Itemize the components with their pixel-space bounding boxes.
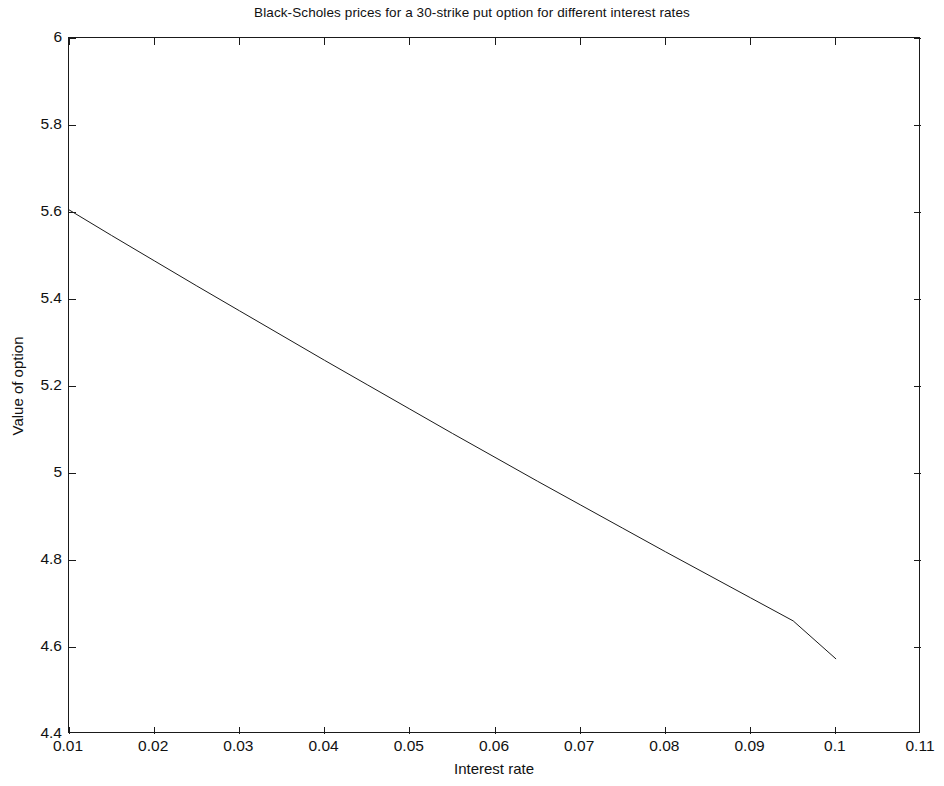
x-tick-label: 0.1 <box>800 738 870 754</box>
plot-area <box>68 37 920 733</box>
y-tick-label: 5.4 <box>6 290 62 306</box>
y-tick-label: 4.6 <box>6 638 62 654</box>
x-axis-ticks <box>69 38 921 734</box>
x-tick-label: 0.01 <box>33 738 103 754</box>
y-axis-title: Value of option <box>9 306 27 466</box>
data-series-layer <box>69 210 836 659</box>
x-tick-label: 0.09 <box>715 738 785 754</box>
x-tick-label: 0.04 <box>289 738 359 754</box>
y-tick-label: 5.8 <box>6 116 62 132</box>
x-tick-label: 0.08 <box>629 738 699 754</box>
y-tick-label: 5 <box>6 464 62 480</box>
plot-svg <box>69 38 921 734</box>
y-tick-label: 5.6 <box>6 203 62 219</box>
x-tick-label: 0.07 <box>544 738 614 754</box>
x-tick-label: 0.05 <box>374 738 444 754</box>
x-tick-label: 0.02 <box>118 738 188 754</box>
figure-canvas: Black-Scholes prices for a 30-strike put… <box>0 0 944 786</box>
y-tick-label: 6 <box>6 29 62 45</box>
y-tick-label: 4.8 <box>6 551 62 567</box>
x-tick-label: 0.06 <box>459 738 529 754</box>
x-axis-title: Interest rate <box>68 760 920 778</box>
page-title: Black-Scholes prices for a 30-strike put… <box>0 4 944 22</box>
x-tick-label: 0.11 <box>885 738 944 754</box>
y-axis-ticks <box>69 38 921 734</box>
x-tick-label: 0.03 <box>203 738 273 754</box>
data-line <box>69 210 836 659</box>
